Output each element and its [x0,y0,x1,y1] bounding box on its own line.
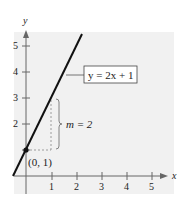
x-tick-label: 3 [99,181,104,192]
y-axis-label: y [22,15,28,26]
chart: x y 1 2 3 4 5 2 3 4 5 m = 2 (0, 1) y = 2… [0,0,187,200]
y-tick-label: 5 [13,40,18,51]
y-tick-label: 2 [13,118,18,129]
slope-label: m = 2 [66,118,93,130]
plot-background [14,32,174,194]
x-tick-label: 4 [124,181,129,192]
x-tick-label: 5 [149,181,154,192]
y-intercept-point [23,147,28,152]
point-label: (0, 1) [28,156,52,169]
x-tick-label: 1 [49,181,54,192]
y-tick-label: 4 [13,66,18,77]
y-tick-label: 3 [13,92,18,103]
equation-label: y = 2x + 1 [88,69,133,81]
x-axis-label: x [171,170,177,181]
x-tick-label: 2 [74,181,79,192]
